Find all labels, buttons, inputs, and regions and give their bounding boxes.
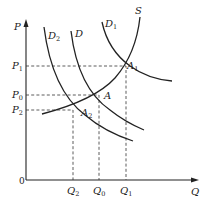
demand-curve-D2 — [44, 27, 133, 141]
label-D1: D1 — [104, 18, 117, 31]
tick-P1: P1 — [11, 60, 23, 73]
supply-demand-diagram: S D D1 D2 A1 A A2 P Q 0 P1 P0 P2 Q2 Q0 Q… — [0, 0, 208, 205]
label-S: S — [135, 5, 142, 16]
y-axis-label: P — [13, 21, 21, 32]
tick-P0: P0 — [11, 89, 23, 102]
guide-A1 — [26, 66, 126, 180]
label-D: D — [74, 28, 83, 39]
label-D2: D2 — [47, 30, 60, 43]
curves — [42, 17, 172, 141]
x-axis-arrow-icon — [191, 178, 199, 183]
axes — [24, 19, 200, 183]
point-A2: A2 — [80, 107, 92, 120]
tick-Q1: Q1 — [120, 185, 132, 198]
y-axis-arrow-icon — [24, 19, 29, 27]
origin-label: 0 — [19, 176, 25, 186]
tick-Q2: Q2 — [67, 185, 79, 198]
tick-Q0: Q0 — [93, 185, 105, 198]
guide-lines — [26, 66, 126, 180]
x-axis-label: Q — [191, 186, 199, 197]
point-A1: A1 — [126, 60, 138, 73]
supply-curve-S — [42, 17, 140, 114]
guide-A2 — [26, 110, 73, 180]
tick-P2: P2 — [11, 104, 23, 117]
point-A: A — [103, 90, 111, 101]
